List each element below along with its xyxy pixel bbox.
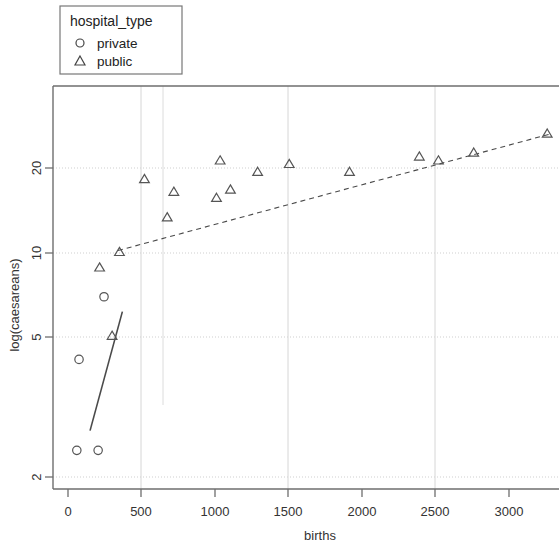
ytick-label-10: 10 xyxy=(29,246,44,260)
xtick-label-2500: 2500 xyxy=(421,504,450,519)
legend: hospital_type private public xyxy=(60,6,182,74)
legend-item-private-label: private xyxy=(97,36,138,51)
legend-item-public-label: public xyxy=(97,54,133,69)
y-axis-label: log(caesareans) xyxy=(7,258,22,351)
plot-background xyxy=(0,0,559,546)
xtick-label-0: 0 xyxy=(64,504,71,519)
ytick-label-2: 2 xyxy=(29,473,44,480)
xtick-label-2000: 2000 xyxy=(348,504,377,519)
plot-canvas: 2 5 10 20 log(caesareans) 0 500 1000 150… xyxy=(0,0,559,546)
xtick-label-1000: 1000 xyxy=(201,504,230,519)
ytick-label-20: 20 xyxy=(29,161,44,175)
scatter-plot-figure: 2 5 10 20 log(caesareans) 0 500 1000 150… xyxy=(0,0,559,546)
legend-title: hospital_type xyxy=(70,13,153,29)
xtick-label-3000: 3000 xyxy=(495,504,524,519)
x-axis-label: births xyxy=(304,528,336,543)
xtick-label-500: 500 xyxy=(130,504,152,519)
xtick-label-1500: 1500 xyxy=(274,504,303,519)
ytick-label-5: 5 xyxy=(29,333,44,340)
